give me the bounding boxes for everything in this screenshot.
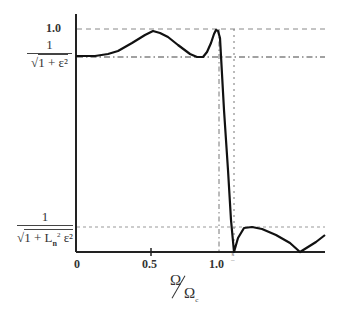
passband-numerator: 1 bbox=[27, 37, 72, 52]
passband-den-body: 1 + ε² bbox=[38, 54, 68, 70]
stopband-numerator: 1 bbox=[17, 209, 73, 224]
y-label-passband: 1 √1 + ε² bbox=[27, 37, 72, 71]
x-tick-zero: 0 bbox=[74, 257, 80, 272]
stopband-den-sub: n bbox=[52, 239, 56, 248]
x-tick-s-bottom: – bbox=[231, 257, 235, 263]
stopband-den-body: 1 + L bbox=[24, 230, 52, 245]
x-tick-s: s – bbox=[231, 251, 235, 263]
stopband-den-tail: ε² bbox=[64, 230, 73, 245]
x-label-numerator: Ω bbox=[170, 272, 181, 289]
stopband-den-sup: 2 bbox=[57, 231, 61, 239]
y-tick-one: 1.0 bbox=[46, 21, 61, 36]
passband-denominator: √1 + ε² bbox=[27, 55, 72, 71]
x-tick-one: 1.0 bbox=[209, 257, 224, 272]
x-axis-label: Ω Ωc bbox=[170, 272, 210, 306]
stopband-fraction-bar bbox=[17, 225, 73, 226]
response-curve bbox=[76, 30, 325, 252]
x-tick-half-label: 0.5 bbox=[142, 257, 157, 272]
stopband-denominator: √1 + Ln2 ε² bbox=[17, 227, 73, 252]
x-label-denominator: Ωc bbox=[184, 285, 198, 304]
y-label-stopband: 1 √1 + Ln2 ε² bbox=[17, 209, 73, 252]
